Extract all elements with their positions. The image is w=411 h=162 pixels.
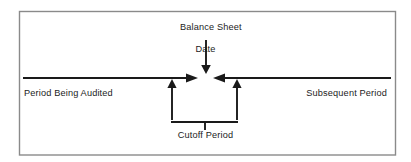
- diagram-canvas: Balance Sheet Date Period Being Audited …: [0, 0, 411, 162]
- subsequent-period-label: Subsequent Period: [306, 88, 387, 99]
- cutoff-period-label: Cutoff Period: [0, 130, 411, 141]
- balance-sheet-date-line1: Balance Sheet: [180, 22, 242, 32]
- balance-sheet-date-line2: Date: [0, 44, 411, 55]
- period-being-audited-label: Period Being Audited: [24, 88, 113, 99]
- balance-sheet-date-label: Balance Sheet Date: [0, 11, 411, 77]
